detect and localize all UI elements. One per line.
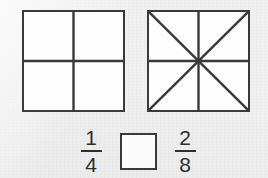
four-part-square-model[interactable]: [22, 10, 125, 112]
right-fraction-bar: [175, 150, 196, 152]
left-fraction-numerator: 1: [85, 128, 97, 148]
fraction-comparison-row: 1 4 2 8: [76, 126, 200, 176]
right-fraction-numerator: 2: [179, 128, 191, 148]
left-fraction-denominator: 4: [85, 155, 97, 175]
worksheet-page: 1 4 2 8: [0, 0, 268, 178]
four-part-square-lines: [24, 12, 123, 110]
comparison-answer-box[interactable]: [120, 133, 157, 170]
left-fraction: 1 4: [76, 128, 106, 175]
right-fraction: 2 8: [170, 128, 200, 175]
left-fraction-bar: [81, 150, 102, 152]
eight-part-square-lines: [149, 12, 248, 110]
right-fraction-denominator: 8: [179, 155, 191, 175]
eight-part-square-model[interactable]: [147, 10, 250, 112]
